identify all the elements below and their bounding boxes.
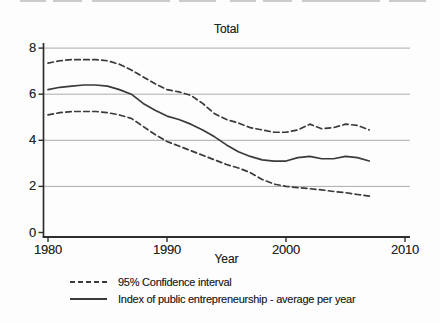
legend-item-index: Index of public entrepreneurship - avera…: [70, 290, 355, 307]
y-tick-label: 2: [14, 179, 36, 193]
confidence-interval-line: [48, 111, 369, 196]
x-axis-title: Year: [43, 252, 410, 266]
y-tick-label: 4: [14, 133, 36, 147]
legend: 95% Confidence interval Index of public …: [70, 273, 355, 307]
legend-label: Index of public entrepreneurship - avera…: [118, 293, 355, 305]
legend-label: 95% Confidence interval: [118, 276, 232, 288]
chart-figure: Total 024681980199020002010 Year 95% Con…: [0, 0, 440, 323]
y-tick-label: 0: [14, 226, 36, 240]
legend-item-confidence-interval: 95% Confidence interval: [70, 273, 355, 290]
dashed-line-swatch: [70, 281, 107, 283]
y-tick-label: 8: [14, 41, 36, 55]
confidence-interval-line: [48, 60, 369, 133]
solid-line-swatch: [70, 298, 107, 300]
y-tick-label: 6: [14, 87, 36, 101]
index-line: [48, 85, 369, 161]
